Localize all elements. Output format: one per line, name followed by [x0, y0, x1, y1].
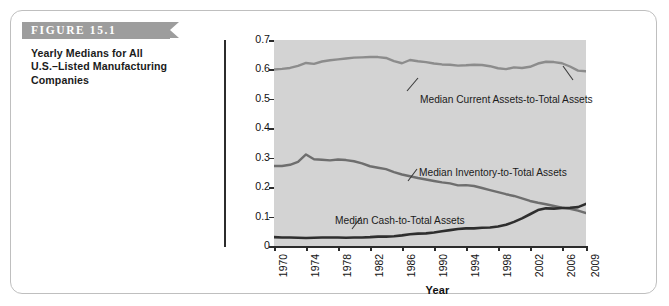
y-axis-tick-label: 0.5 — [226, 92, 270, 104]
y-axis-tick-label: 0.6 — [226, 62, 270, 74]
x-axis-tick-label: 2009 — [590, 254, 601, 277]
y-axis-tick-label: 0.3 — [226, 151, 270, 163]
figure-number-label: FIGURE 15.1 — [31, 24, 116, 36]
x-axis-tick-label: 1970 — [278, 254, 289, 277]
figure-caption-line-2: U.S.–Listed Manufacturing — [31, 60, 199, 73]
x-axis-tick-mark — [586, 246, 588, 251]
x-axis-tick-label: 1986 — [406, 254, 417, 277]
figure-caption-line-3: Companies — [31, 74, 199, 87]
y-axis-tick-mark — [269, 69, 274, 71]
x-axis-tick-label: 1990 — [438, 254, 449, 277]
caption-panel: FIGURE 15.1 Yearly Medians for All U.S.–… — [22, 22, 207, 282]
figure-caption: Yearly Medians for All U.S.–Listed Manuf… — [31, 47, 199, 87]
series-annotation-cash: Median Cash-to-Total Assets — [335, 215, 465, 226]
x-axis-tick-mark — [498, 246, 500, 251]
series-annotation-inventory: Median Inventory-to-Total Assets — [419, 167, 567, 178]
y-axis-tick-label: 0.1 — [226, 210, 270, 222]
y-axis-tick-mark — [269, 128, 274, 130]
figure-number-banner: FIGURE 15.1 — [22, 22, 170, 39]
y-axis-tick-label: 0.7 — [226, 33, 270, 45]
y-axis-tick-mark — [269, 40, 274, 42]
x-axis-tick-label: 2006 — [566, 254, 577, 277]
x-axis-title: Year — [225, 284, 650, 296]
x-axis-tick-mark — [466, 246, 468, 251]
y-axis-tick-label: 0 — [226, 239, 270, 251]
x-axis-tick-mark — [562, 246, 564, 251]
x-axis-tick-label: 1982 — [374, 254, 385, 277]
y-axis-tick-mark — [269, 99, 274, 101]
x-axis-tick-mark — [370, 246, 372, 251]
x-axis-tick-label: 1978 — [342, 254, 353, 277]
x-axis-tick-label: 1994 — [470, 254, 481, 277]
y-axis-tick-label: 0.2 — [226, 180, 270, 192]
y-axis-tick-mark — [269, 217, 274, 219]
x-axis-tick-label: 1998 — [502, 254, 513, 277]
y-axis-tick-mark — [269, 246, 274, 248]
y-axis-tick-mark — [269, 187, 274, 189]
x-axis-tick-label: 1974 — [310, 254, 321, 277]
figure-card: FIGURE 15.1 Yearly Medians for All U.S.–… — [10, 10, 657, 294]
x-axis-tick-label: 2002 — [534, 254, 545, 277]
line-chart: 00.10.20.30.40.50.60.7 19701974197819821… — [225, 25, 650, 300]
series-annotation-current-assets: Median Current Assets-to-Total Assets — [420, 94, 593, 105]
y-axis-tick-mark — [269, 158, 274, 160]
figure-caption-line-1: Yearly Medians for All — [31, 47, 199, 60]
x-axis-tick-mark — [434, 246, 436, 251]
y-axis-ticks: 00.10.20.30.40.50.60.7 — [225, 25, 270, 265]
x-axis-tick-mark — [338, 246, 340, 251]
x-axis-tick-mark — [306, 246, 308, 251]
x-axis-line — [274, 246, 587, 248]
x-axis-tick-mark — [530, 246, 532, 251]
banner-arrow-icon — [170, 22, 179, 38]
series-line-inventory — [274, 154, 586, 213]
x-axis-tick-mark — [274, 246, 276, 251]
x-axis-tick-mark — [402, 246, 404, 251]
y-axis-tick-label: 0.4 — [226, 121, 270, 133]
series-line-current-assets — [274, 57, 586, 71]
